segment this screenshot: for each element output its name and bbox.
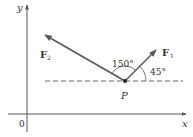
force-vector-f2 <box>45 35 125 81</box>
point-p <box>123 79 127 83</box>
angle-label-150: 150° <box>112 59 134 69</box>
svg-text:F: F <box>162 47 169 58</box>
f2-label: F 2 <box>40 49 51 61</box>
point-p-label: P <box>120 90 128 101</box>
origin-label: 0 <box>19 119 25 129</box>
y-axis-label: y <box>16 2 23 13</box>
svg-text:1: 1 <box>170 52 174 59</box>
force-diagram: y x 0 P F 2 F 1 150° 45° <box>0 0 193 137</box>
svg-text:2: 2 <box>47 54 51 61</box>
f1-label: F 1 <box>162 47 174 59</box>
angle-arc-45 <box>140 66 146 81</box>
angle-label-45: 45° <box>150 67 166 77</box>
x-axis-label: x <box>182 118 188 129</box>
